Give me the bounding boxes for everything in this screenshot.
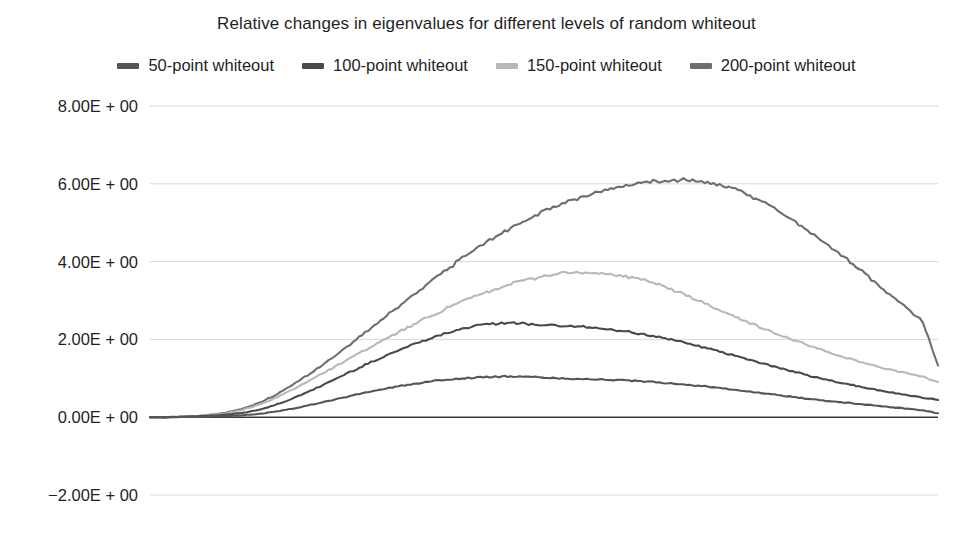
y-axis-tick-label: −2.00E + 00: [0, 486, 138, 505]
series-line-150-point: [150, 272, 938, 418]
chart-root: Relative changes in eigenvalues for diff…: [0, 0, 973, 539]
y-axis-tick-label: 0.00E + 00: [0, 408, 138, 427]
y-axis-tick-label: 2.00E + 00: [0, 330, 138, 349]
y-axis-tick-label: 4.00E + 00: [0, 252, 138, 271]
y-axis-tick-label: 8.00E + 00: [0, 97, 138, 116]
y-axis-tick-label: 6.00E + 00: [0, 174, 138, 193]
series-line-100-point: [150, 322, 938, 417]
series-line-200-point: [150, 178, 938, 417]
series-line-50-point: [150, 376, 938, 418]
plot-canvas: [0, 0, 973, 539]
plot-area: 8.00E + 006.00E + 004.00E + 002.00E + 00…: [0, 0, 973, 539]
